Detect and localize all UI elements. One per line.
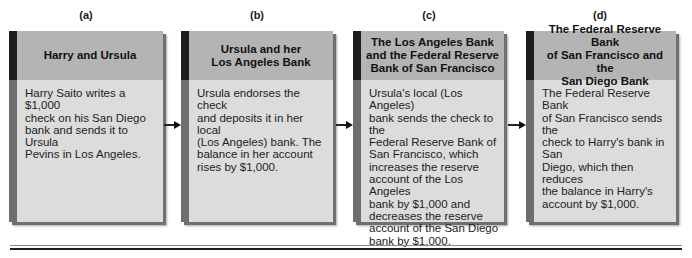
card-title: Harry and Ursula [17, 31, 163, 80]
card-body: The Federal Reserve Bank of San Francisc… [534, 80, 676, 222]
card-stripe-dark [353, 31, 361, 80]
step-card-c: The Los Angeles Bank and the Federal Res… [353, 31, 504, 222]
card-stripe-mid [181, 80, 189, 222]
step-card-d: The Federal Reserve Bank of San Francisc… [526, 31, 676, 222]
card-stripe-dark [526, 31, 534, 80]
card-title: The Los Angeles Bank and the Federal Res… [361, 31, 504, 80]
card-stripe-mid [9, 80, 17, 222]
step-label-b: (b) [237, 9, 277, 21]
step-label-a: (a) [66, 9, 106, 21]
card-body: Harry Saito writes a $1,000 check on his… [17, 80, 163, 222]
divider-thin [10, 245, 682, 246]
card-stripe-dark [9, 31, 17, 80]
arrow-right-icon [164, 121, 181, 129]
arrow-right-icon [336, 121, 353, 129]
arrow-right-icon [508, 121, 526, 129]
card-stripe-mid [526, 80, 534, 222]
card-title: The Federal Reserve Bank of San Francisc… [534, 31, 676, 80]
step-label-d: (d) [580, 9, 620, 21]
step-card-a: Harry and Ursula Harry Saito writes a $1… [9, 31, 163, 222]
step-card-b: Ursula and her Los Angeles Bank Ursula e… [181, 31, 333, 222]
card-title: Ursula and her Los Angeles Bank [189, 31, 333, 80]
card-stripe-dark [181, 31, 189, 80]
card-body: Ursula's local (Los Angeles) bank sends … [361, 80, 504, 222]
step-label-c: (c) [409, 9, 449, 21]
divider-thick [10, 248, 682, 250]
card-body: Ursula endorses the check and deposits i… [189, 80, 333, 222]
card-stripe-mid [353, 80, 361, 222]
